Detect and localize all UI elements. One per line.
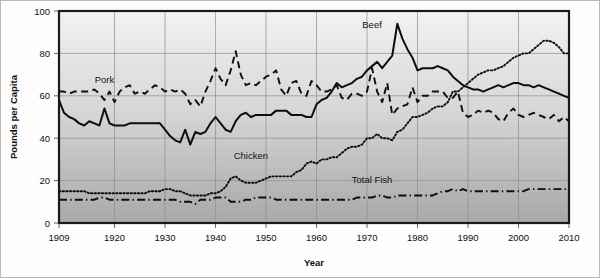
x-axis-tick-labels: 1909192019301940195019601970198019902000… bbox=[48, 232, 579, 243]
x-tick-label: 2000 bbox=[508, 232, 529, 243]
x-tick-label: 1960 bbox=[306, 232, 327, 243]
y-tick-label: 80 bbox=[39, 48, 50, 59]
y-axis-title: Pounds per Capita bbox=[8, 74, 19, 159]
x-tick-label: 1990 bbox=[457, 232, 478, 243]
annotation-pork: Pork bbox=[95, 74, 115, 85]
y-tick-label: 0 bbox=[45, 218, 50, 229]
y-tick-label: 20 bbox=[39, 175, 50, 186]
x-tick-label: 1930 bbox=[154, 232, 175, 243]
annotation-beef: Beef bbox=[362, 19, 382, 30]
x-tick-label: 1970 bbox=[356, 232, 377, 243]
x-tick-label: 1940 bbox=[205, 232, 226, 243]
x-tick-label: 2010 bbox=[558, 232, 579, 243]
y-tick-label: 40 bbox=[39, 133, 50, 144]
x-tick-label: 1950 bbox=[255, 232, 276, 243]
x-tick-label: 1909 bbox=[48, 232, 69, 243]
x-axis-title: Year bbox=[304, 257, 324, 268]
y-tick-label: 60 bbox=[39, 90, 50, 101]
x-tick-label: 1920 bbox=[104, 232, 125, 243]
x-tick-label: 1980 bbox=[407, 232, 428, 243]
y-axis-tick-labels: 020406080100 bbox=[34, 6, 50, 229]
chart-container: 020406080100 190919201930194019501960197… bbox=[0, 0, 600, 278]
line-chart: 020406080100 190919201930194019501960197… bbox=[1, 1, 600, 278]
annotation-chicken: Chicken bbox=[234, 150, 268, 161]
annotation-total-fish: Total Fish bbox=[352, 174, 393, 185]
y-tick-label: 100 bbox=[34, 6, 50, 17]
